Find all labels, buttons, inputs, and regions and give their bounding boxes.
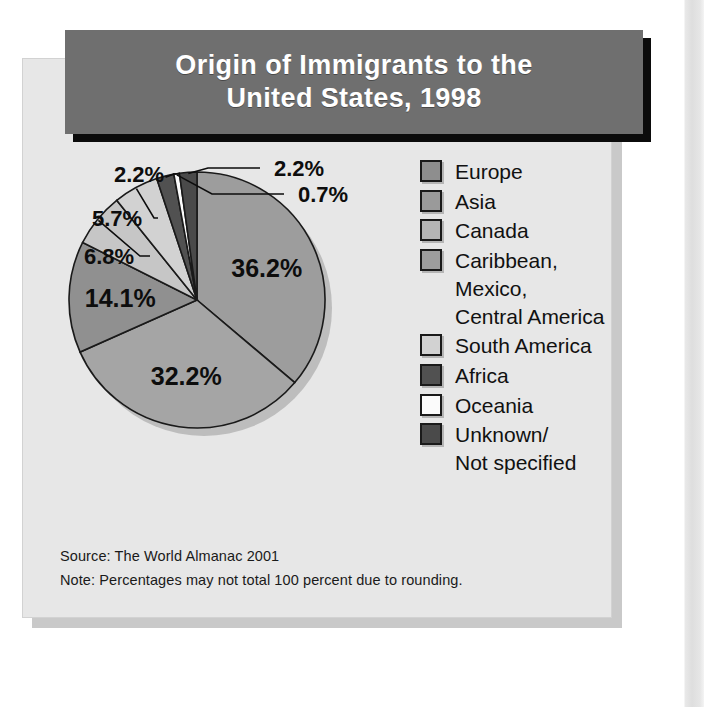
legend-swatch [420, 364, 442, 386]
pie-slice-label: 32.2% [151, 362, 222, 390]
legend-swatch [420, 423, 442, 445]
legend-swatch [420, 394, 442, 416]
legend-item[interactable]: Asia [420, 188, 616, 216]
legend-item[interactable]: South America [420, 332, 616, 360]
footnotes: Source: The World Almanac 2001 Note: Per… [60, 545, 580, 592]
legend-swatch [420, 334, 442, 356]
legend-label: Europe [455, 158, 523, 186]
legend-swatch [420, 249, 442, 271]
legend-swatch [420, 190, 442, 212]
legend-label: Caribbean, Mexico, Central America [455, 247, 604, 330]
pie-chart-svg: 36.2%32.2%14.1%6.8%5.7%2.2%0.7%2.2% [62, 148, 422, 448]
source-line: Source: The World Almanac 2001 [60, 545, 580, 568]
legend-item[interactable]: Unknown/ Not specified [420, 421, 616, 476]
pie-slice-label: 36.2% [231, 254, 302, 282]
legend-item[interactable]: Caribbean, Mexico, Central America [420, 247, 616, 330]
page-title: Origin of Immigrants to the United State… [161, 49, 546, 115]
title-banner: Origin of Immigrants to the United State… [65, 30, 643, 134]
legend-label: Oceania [455, 392, 533, 420]
legend-swatch [420, 160, 442, 182]
pie-callout-label: 5.7% [92, 206, 142, 231]
legend-swatch [420, 219, 442, 241]
pie-chart: 36.2%32.2%14.1%6.8%5.7%2.2%0.7%2.2% [62, 148, 422, 448]
legend-item[interactable]: Canada [420, 217, 616, 245]
legend-label: Unknown/ Not specified [455, 421, 576, 476]
pie-callout-label: 2.2% [114, 162, 164, 187]
page-edge-strip [678, 0, 704, 707]
legend-label: Africa [455, 362, 509, 390]
legend-item[interactable]: Oceania [420, 392, 616, 420]
legend-label: Asia [455, 188, 496, 216]
legend-label: South America [455, 332, 592, 360]
chart-area: 36.2%32.2%14.1%6.8%5.7%2.2%0.7%2.2% Euro… [22, 58, 612, 618]
pie-slice-label: 14.1% [85, 284, 156, 312]
legend-label: Canada [455, 217, 529, 245]
legend-item[interactable]: Europe [420, 158, 616, 186]
note-line: Note: Percentages may not total 100 perc… [60, 569, 580, 592]
pie-callout-label: 0.7% [298, 182, 348, 207]
pie-callout-label: 2.2% [274, 156, 324, 181]
pie-callout-label: 6.8% [84, 244, 134, 269]
chart-legend: EuropeAsiaCanadaCaribbean, Mexico, Centr… [420, 158, 616, 479]
legend-item[interactable]: Africa [420, 362, 616, 390]
